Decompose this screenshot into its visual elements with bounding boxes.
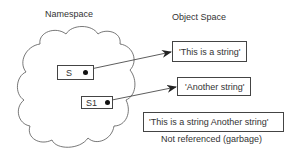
reference-dot-icon xyxy=(105,100,110,105)
object-another-string-value: 'Another string' xyxy=(185,82,244,92)
object-space-title: Object Space xyxy=(172,12,226,22)
object-string: 'This is a string' xyxy=(172,41,247,62)
object-string-value: 'This is a string' xyxy=(179,47,240,57)
reference-dot-icon xyxy=(83,70,88,75)
variable-s: S xyxy=(57,65,94,80)
namespace-cloud xyxy=(17,27,135,148)
object-garbage-value: 'This is a string Another string' xyxy=(149,117,269,127)
garbage-caption: Not referenced (garbage) xyxy=(161,134,262,144)
namespace-title: Namespace xyxy=(45,9,93,19)
object-another-string: 'Another string' xyxy=(177,77,251,96)
variable-s1-label: S1 xyxy=(86,98,97,108)
variable-s1: S1 xyxy=(81,96,113,109)
object-garbage: 'This is a string Another string' xyxy=(143,112,284,132)
variable-s-label: S xyxy=(66,68,72,78)
